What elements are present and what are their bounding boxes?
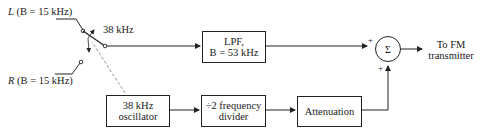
lpf-block: LPF, B = 53 kHz [202, 31, 266, 63]
left-var: L [8, 6, 14, 17]
oscillator-line2: oscillator [118, 111, 157, 122]
output-line2: transmitter [428, 50, 474, 61]
plus-sign-bottom: + [378, 63, 383, 73]
oscillator-line1: 38 kHz [123, 100, 154, 111]
control-dashed-line [92, 42, 125, 93]
lpf-line2: B = 53 kHz [210, 47, 259, 58]
right-var: R [8, 75, 14, 86]
left-input-wire [56, 19, 83, 30]
right-cond: (B = 15 kHz) [17, 75, 73, 86]
right-input-label: R (B = 15 kHz) [8, 75, 73, 86]
oscillator-block: 38 kHz oscillator [106, 95, 170, 127]
left-input-label: L (B = 15 kHz) [8, 6, 72, 17]
left-cond: (B = 15 kHz) [16, 6, 72, 17]
summing-junction: Σ [375, 36, 401, 62]
right-input-wire [55, 63, 80, 74]
switch-rate-label: 38 kHz [103, 24, 134, 35]
output-line1: To FM [428, 39, 474, 50]
switch-arm [83, 31, 105, 46]
divider-line2: divider [219, 111, 249, 122]
plus-sign-top: + [368, 35, 373, 45]
attenuation-block: Attenuation [297, 96, 362, 127]
right-contact [79, 60, 83, 64]
output-label: To FM transmitter [428, 39, 474, 61]
pivot-contact [103, 44, 107, 48]
sigma-icon: Σ [385, 44, 391, 55]
wire-atten-to-sum [362, 66, 388, 110]
attenuation-line1: Attenuation [305, 106, 355, 117]
divider-line1: ÷2 frequency [206, 100, 262, 111]
lpf-line1: LPF, [224, 36, 244, 47]
divider-block: ÷2 frequency divider [201, 95, 266, 127]
